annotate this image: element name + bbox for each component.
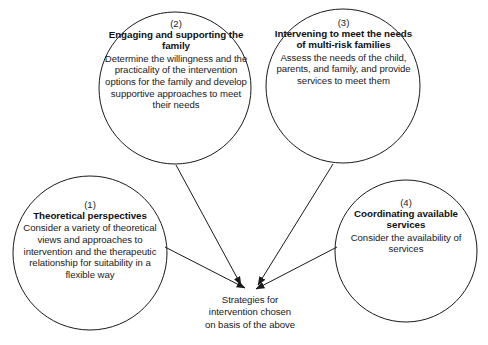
outcome-label: Strategies for intervention chosen on ba… — [170, 294, 330, 331]
arrow-node-2-to-outcome — [176, 165, 241, 285]
node-theoretical-perspectives[interactable]: (1) Theoretical perspectives Consider a … — [14, 199, 166, 280]
outcome-line-2: intervention chosen — [170, 306, 330, 318]
node-title: Engaging and supporting the family — [100, 29, 252, 52]
outcome-line-3: on basis of the above — [170, 319, 330, 331]
node-coordinating-available-services[interactable]: (4) Coordinating available services Cons… — [340, 197, 472, 255]
node-title: Coordinating available services — [340, 208, 472, 231]
node-body: Consider a variety of theoretical views … — [14, 222, 166, 280]
node-number: (4) — [400, 197, 412, 208]
node-title: Theoretical perspectives — [33, 210, 147, 221]
node-engaging-supporting-family[interactable]: (2) Engaging and supporting the family D… — [100, 18, 252, 111]
node-number: (3) — [338, 17, 350, 28]
arrow-node-3-to-outcome — [258, 164, 333, 285]
node-number: (1) — [84, 199, 96, 210]
arrow-node-1-to-outcome — [165, 247, 245, 288]
outcome-line-1: Strategies for — [170, 294, 330, 306]
diagram-page: (2) Engaging and supporting the family D… — [0, 0, 488, 345]
node-title: Intervening to meet the needs of multi-r… — [271, 28, 416, 51]
node-intervening-multi-risk-families[interactable]: (3) Intervening to meet the needs of mul… — [271, 17, 416, 87]
node-body: Consider the availability of services — [340, 232, 472, 255]
node-body: Determine the willingness and the practi… — [101, 53, 251, 111]
node-number: (2) — [170, 18, 182, 29]
node-body: Assess the needs of the child, parents, … — [272, 52, 416, 87]
